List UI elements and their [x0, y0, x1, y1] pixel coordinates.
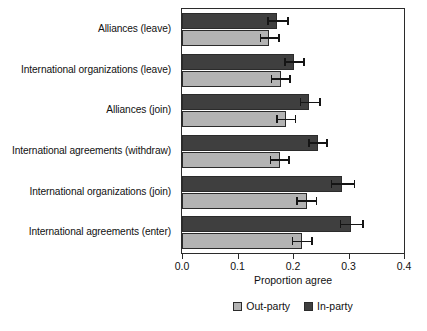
x-axis-tick	[238, 254, 239, 259]
x-axis-tick-label: 0.1	[218, 260, 258, 272]
bar-in-party	[182, 135, 318, 151]
error-bar-line	[340, 224, 364, 226]
error-bar-line	[296, 200, 317, 202]
x-axis-title: Proportion agree	[181, 274, 405, 286]
error-bar-cap-left	[284, 58, 286, 66]
error-bar-cap-right	[289, 75, 291, 83]
error-bar-out-party	[276, 115, 296, 124]
bar-in-party	[182, 94, 309, 110]
bar-in-party	[182, 54, 294, 70]
error-bar-in-party	[284, 57, 305, 66]
bar-in-party	[182, 13, 277, 29]
category-label: Alliances (join)	[0, 104, 171, 115]
error-bar-cap-right	[362, 220, 364, 228]
error-bar-in-party	[331, 179, 355, 188]
error-bar-line	[260, 37, 280, 39]
error-bar-in-party	[308, 138, 328, 147]
error-bar-cap-left	[340, 220, 342, 228]
category-label: International agreements (withdraw)	[0, 145, 171, 156]
bar-out-party	[182, 193, 307, 209]
error-bar-cap-left	[296, 197, 298, 205]
error-bar-cap-right	[295, 115, 297, 123]
legend-label: Out-party	[246, 300, 290, 312]
error-bar-in-party	[300, 98, 321, 107]
legend-swatch-inparty	[304, 302, 313, 311]
error-bar-line	[284, 61, 305, 63]
chart-legend: Out-partyIn-party	[181, 296, 405, 316]
legend-swatch-outparty	[233, 302, 242, 311]
error-bar-cap-left	[300, 98, 302, 106]
error-bar-out-party	[296, 196, 317, 205]
category-label: Alliances (leave)	[0, 23, 171, 34]
plot-area	[181, 8, 405, 254]
error-bar-in-party	[267, 16, 288, 25]
error-bar-cap-right	[311, 237, 313, 245]
error-bar-cap-left	[270, 156, 272, 164]
error-bar-line	[276, 119, 296, 121]
error-bar-cap-left	[308, 139, 310, 147]
category-label: International agreements (enter)	[0, 226, 171, 237]
error-bar-in-party	[340, 220, 364, 229]
x-axis-tick	[349, 254, 350, 259]
error-bar-cap-left	[271, 75, 273, 83]
error-bar-cap-left	[292, 237, 294, 245]
error-bar-line	[292, 241, 313, 243]
bar-out-party	[182, 152, 280, 168]
error-bar-cap-left	[276, 115, 278, 123]
error-bar-cap-right	[326, 139, 328, 147]
error-bar-cap-right	[354, 180, 356, 188]
error-bar-cap-right	[278, 34, 280, 42]
legend-label: In-party	[317, 300, 353, 312]
error-bar-out-party	[292, 237, 313, 246]
error-bar-cap-left	[260, 34, 262, 42]
error-bar-line	[300, 102, 321, 104]
error-bar-out-party	[271, 74, 291, 83]
error-bar-cap-right	[319, 98, 321, 106]
legend-item-outparty: Out-party	[233, 300, 290, 312]
bar-in-party	[182, 216, 351, 232]
error-bar-out-party	[270, 155, 290, 164]
x-axis-tick-label: 0.3	[329, 260, 369, 272]
category-label: International organizations (leave)	[0, 64, 171, 75]
error-bar-cap-left	[331, 180, 333, 188]
x-axis-tick-label: 0.2	[273, 260, 313, 272]
x-axis-tick	[182, 254, 183, 259]
bar-out-party	[182, 233, 302, 249]
error-bar-out-party	[260, 33, 280, 42]
category-axis-labels: Alliances (leave)International organizat…	[0, 8, 176, 254]
bar-chart-figure: Alliances (leave)International organizat…	[0, 0, 427, 331]
error-bar-line	[267, 20, 288, 22]
error-bar-line	[308, 142, 328, 144]
plot-inner	[182, 9, 404, 253]
x-axis-tick-label: 0.0	[162, 260, 202, 272]
error-bar-line	[270, 159, 290, 161]
x-axis-tick	[404, 254, 405, 259]
x-axis-tick-label: 0.4	[384, 260, 424, 272]
category-label: International organizations (join)	[0, 186, 171, 197]
error-bar-line	[331, 183, 355, 185]
error-bar-cap-right	[316, 197, 318, 205]
error-bar-cap-left	[267, 17, 269, 25]
error-bar-cap-right	[287, 17, 289, 25]
bar-out-party	[182, 111, 286, 127]
bar-out-party	[182, 30, 269, 46]
bar-out-party	[182, 71, 281, 87]
x-axis-tick	[293, 254, 294, 259]
legend-item-inparty: In-party	[304, 300, 353, 312]
error-bar-cap-right	[303, 58, 305, 66]
error-bar-line	[271, 78, 291, 80]
bar-in-party	[182, 176, 342, 192]
error-bar-cap-right	[288, 156, 290, 164]
